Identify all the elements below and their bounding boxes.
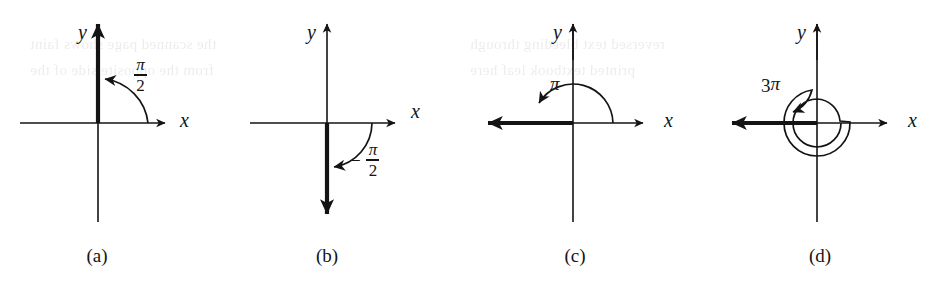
fraction-pi-over-two: π 2 — [366, 141, 379, 179]
panel-b-graph — [250, 24, 395, 214]
panel-b-x-axis-label: x — [411, 101, 420, 121]
fraction-pi-over-two: π 2 — [134, 56, 147, 94]
panel-c-angle-label: π — [550, 74, 560, 93]
fraction-denominator: 2 — [367, 162, 380, 179]
pi-symbol: π — [771, 73, 781, 94]
angle-coefficient: 3 — [761, 76, 771, 95]
panel-d-x-axis-label: x — [908, 110, 917, 130]
panel-d-y-axis-label: y — [797, 22, 806, 42]
panel-caption-d: (d) — [790, 246, 850, 265]
panel-d-angle-label: 3π — [761, 74, 780, 95]
fraction-numerator: π — [134, 56, 147, 73]
panel-caption-c: (c) — [545, 246, 605, 265]
panel-c-graph — [488, 24, 643, 222]
panel-a-angle-label: π 2 — [134, 56, 147, 94]
pi-symbol: π — [550, 73, 560, 94]
panel-caption-a: (a) — [67, 246, 127, 265]
figure-root: the scanned page shows faint reversed te… — [0, 0, 930, 285]
panel-d-graph — [732, 24, 887, 222]
fraction-numerator: π — [367, 141, 380, 158]
panel-a-y-axis-label: y — [78, 22, 87, 42]
angle-diagrams-svg — [0, 0, 930, 285]
fraction-denominator: 2 — [134, 77, 147, 94]
panel-c-x-axis-label: x — [664, 110, 673, 130]
panel-a-graph — [20, 24, 165, 222]
panel-b-y-axis-label: y — [307, 22, 316, 42]
panel-caption-b: (b) — [297, 246, 357, 265]
panel-c-y-axis-label: y — [553, 22, 562, 42]
negative-sign: − — [350, 151, 361, 170]
panel-a-x-axis-label: x — [180, 110, 189, 130]
panel-b-angle-label: − π 2 — [350, 141, 379, 179]
